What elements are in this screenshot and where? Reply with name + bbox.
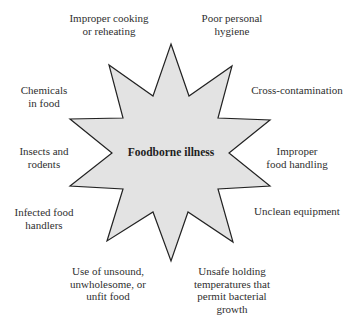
cause-label-line: Insects and [19,145,69,157]
cause-label-infected-handlers: Infected foodhandlers [15,206,74,231]
cause-label-unclean-equipment: Unclean equipment [254,205,340,217]
cause-label-line: Cross-contamination [251,84,343,96]
cause-label-improper-handling: Improperfood handling [266,145,328,170]
cause-label-line: or reheating [83,25,136,37]
cause-label-line: Infected food [15,206,74,218]
cause-label-line: Chemicals [21,84,67,96]
cause-label-line: Poor personal [202,12,263,24]
center-label-foodborne-illness: Foodborne illness [128,146,215,158]
cause-label-line: unwholesome, or [70,278,146,290]
cause-label-line: hygiene [215,25,250,37]
cause-label-line: Use of unsound, [72,265,144,277]
cause-label-line: rodents [28,158,60,170]
cause-label-cross-contamination: Cross-contamination [251,84,343,96]
cause-label-line: food handling [266,158,328,170]
cause-label-unsound-food: Use of unsound,unwholesome, orunfit food [70,265,146,302]
cause-label-line: temperatures that [194,278,270,290]
cause-label-insects-rodents: Insects androdents [19,145,69,170]
cause-label-poor-hygiene: Poor personalhygiene [202,12,263,37]
cause-label-unsafe-temperatures: Unsafe holdingtemperatures thatpermit ba… [194,265,270,315]
cause-label-line: unfit food [86,290,130,302]
cause-label-line: handlers [25,219,62,231]
cause-label-chemicals: Chemicalsin food [21,84,67,109]
cause-label-line: permit bacterial [197,290,266,302]
cause-label-line: Unsafe holding [198,265,266,277]
foodborne-illness-diagram: Foodborne illness Improper cookingor reh… [0,0,360,326]
cause-label-improper-cooking: Improper cookingor reheating [69,12,149,37]
cause-label-line: Unclean equipment [254,205,340,217]
cause-label-line: growth [216,303,248,315]
cause-label-line: Improper cooking [69,12,149,24]
cause-label-line: in food [28,97,60,109]
cause-label-line: Improper [277,145,318,157]
